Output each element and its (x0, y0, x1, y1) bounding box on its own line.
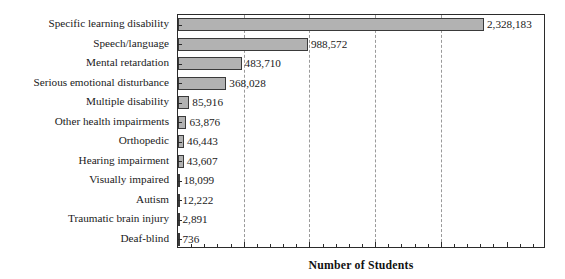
x-axis-tick (349, 244, 350, 248)
x-axis-tick (362, 244, 363, 248)
category-label: Deaf-blind (0, 229, 172, 249)
x-axis-tick (441, 242, 442, 247)
x-axis-tick (296, 244, 297, 248)
bar-value-label: 736 (180, 230, 200, 250)
chart-figure: Specific learning disabilitySpeech/langu… (0, 0, 565, 279)
x-axis-tick (323, 244, 324, 248)
x-axis-tick (480, 244, 481, 248)
y-axis-tick (178, 142, 182, 143)
bar-row: 2,891 (178, 210, 546, 230)
bar-value-label: 483,710 (242, 54, 281, 74)
bar-value-label: 63,876 (186, 113, 220, 133)
x-axis-tick (533, 244, 534, 248)
bar-row: 85,916 (178, 93, 546, 113)
x-axis-tick (257, 244, 258, 248)
x-axis-tick (401, 244, 402, 248)
y-axis-tick (178, 200, 182, 201)
x-axis-tick (191, 244, 192, 248)
y-axis-tick (178, 122, 182, 123)
y-axis-tick (178, 25, 182, 26)
category-label: Multiple disability (0, 92, 172, 112)
category-label: Specific learning disability (0, 14, 172, 34)
y-axis-tick (178, 181, 182, 182)
y-axis-tick (178, 220, 182, 221)
y-axis-tick (178, 83, 182, 84)
bar (178, 57, 242, 70)
x-axis-tick (244, 242, 245, 247)
x-axis-tick (309, 242, 310, 247)
category-label: Mental retardation (0, 53, 172, 73)
bar-row: 368,028 (178, 74, 546, 94)
category-label: Serious emotional disturbance (0, 73, 172, 93)
category-label: Autism (0, 190, 172, 210)
plot-area: 2,328,183988,572483,710368,02885,91663,8… (177, 14, 545, 248)
x-axis-tick (388, 244, 389, 248)
x-axis-tick (204, 244, 205, 248)
bar-row: 46,443 (178, 132, 546, 152)
bar-value-label: 43,607 (184, 152, 218, 172)
category-label: Other health impairments (0, 112, 172, 132)
bar-row: 988,572 (178, 35, 546, 55)
x-axis-tick (493, 244, 494, 248)
bar-row: 43,607 (178, 152, 546, 172)
bar-row: 2,328,183 (178, 15, 546, 35)
y-axis-tick (178, 103, 182, 104)
bar-value-label: 18,099 (180, 171, 214, 191)
bar-value-label: 85,916 (189, 93, 223, 113)
x-axis-tick (467, 244, 468, 248)
category-label: Orthopedic (0, 131, 172, 151)
x-axis-tick (507, 242, 508, 247)
bar (178, 38, 308, 51)
y-axis-tick (178, 161, 182, 162)
bar-value-label: 2,328,183 (484, 15, 532, 35)
bar-row: 18,099 (178, 171, 546, 191)
y-axis-tick (178, 44, 182, 45)
bar-row: 483,710 (178, 54, 546, 74)
bar-row: 12,222 (178, 191, 546, 211)
bar-value-label: 12,222 (180, 191, 214, 211)
category-label: Speech/language (0, 34, 172, 54)
bar-value-label: 46,443 (184, 132, 218, 152)
x-axis-tick (520, 244, 521, 248)
x-axis-tick (270, 244, 271, 248)
bar-value-label: 2,891 (180, 210, 208, 230)
x-axis-tick (428, 244, 429, 248)
x-axis-tick (217, 244, 218, 248)
x-axis-tick (375, 242, 376, 247)
bar (178, 18, 484, 31)
bar-value-label: 368,028 (226, 74, 265, 94)
category-label: Traumatic brain injury (0, 209, 172, 229)
category-label: Visually impaired (0, 170, 172, 190)
x-axis-title: Number of Students (177, 258, 545, 273)
x-axis-tick (454, 244, 455, 248)
bar-value-label: 988,572 (308, 35, 347, 55)
x-axis-tick (336, 244, 337, 248)
bar (178, 77, 226, 90)
bar-row: 63,876 (178, 113, 546, 133)
x-axis-tick (283, 244, 284, 248)
plot-inner: 2,328,183988,572483,710368,02885,91663,8… (178, 15, 544, 247)
x-axis-tick (231, 244, 232, 248)
x-axis-tick (415, 244, 416, 248)
y-axis-tick (178, 64, 182, 65)
category-axis-labels: Specific learning disabilitySpeech/langu… (0, 14, 172, 248)
y-axis-tick (178, 239, 182, 240)
category-label: Hearing impairment (0, 151, 172, 171)
